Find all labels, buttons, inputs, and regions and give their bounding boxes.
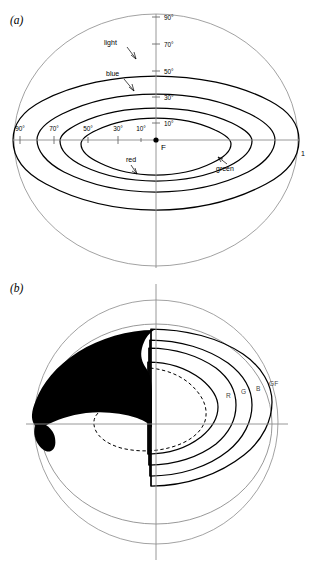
curve-label-b: B: [256, 385, 261, 392]
curve-label-green: green: [216, 165, 234, 173]
curve-label-blue: blue: [106, 70, 119, 77]
tick-label-v-50: 50°: [164, 68, 174, 75]
curve-label-light: light: [104, 39, 117, 47]
tick-label-h-50: 50°: [83, 125, 93, 132]
tick-label-v-70: 70°: [164, 41, 174, 48]
curve-label-gf: GF: [269, 380, 278, 387]
isopter-gf: [151, 329, 272, 486]
tick-label-v-90: 90°: [164, 14, 174, 21]
tick-label-h-30: 30°: [113, 125, 123, 132]
isopter-b: [150, 340, 252, 476]
tick-label-h-70: 70°: [49, 125, 59, 132]
fixation-point-label: F: [161, 143, 166, 152]
scotoma-region: [32, 330, 154, 428]
fixation-point-marker: [153, 137, 158, 142]
tick-label-h-10: 10°: [136, 125, 146, 132]
leader-green: [218, 157, 227, 164]
leader-light: [127, 47, 136, 59]
curve-label-g: G: [241, 388, 246, 395]
scale-label-one: 1: [301, 150, 305, 157]
tick-label-v-10: 10°: [164, 120, 174, 127]
panel-b: (b): [0, 278, 311, 562]
perimetry-figure: (a) 90° 70° 50° 30° 10°: [0, 0, 311, 562]
tick-label-v-30: 30°: [164, 94, 174, 101]
curve-label-red: red: [126, 156, 136, 163]
curve-label-r: R: [226, 392, 231, 399]
panel-b-plot: R G B GF: [0, 278, 311, 562]
panel-a-plot: 90° 70° 50° 30° 10° 90° 70° 50° 30° 10° …: [0, 0, 311, 278]
panel-a: (a) 90° 70° 50° 30° 10°: [0, 0, 311, 278]
isopter-r: [148, 362, 218, 454]
isopter-g: [149, 348, 236, 465]
scotoma-tail: [34, 424, 55, 452]
tick-label-h-90: 90°: [15, 125, 25, 132]
